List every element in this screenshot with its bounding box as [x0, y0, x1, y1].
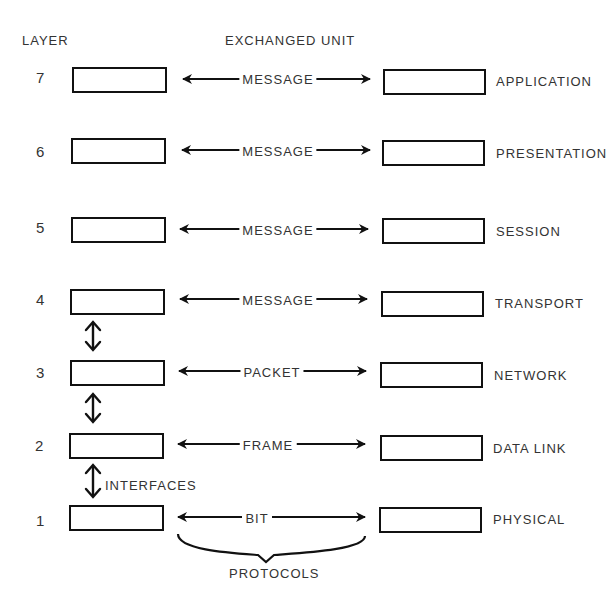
layer-number: 2 [35, 437, 43, 454]
layer-number: 7 [36, 69, 44, 86]
layer-name: DATA LINK [493, 441, 567, 456]
local-layer-box [69, 505, 164, 531]
layer-name: APPLICATION [496, 74, 592, 89]
protocols-label: PROTOCOLS [229, 566, 319, 581]
exchanged-unit-label: PACKET [240, 365, 303, 380]
local-layer-box [72, 67, 167, 93]
layer-name: TRANSPORT [495, 296, 584, 311]
layer-name: PRESENTATION [496, 146, 607, 161]
exchanged-unit-label: MESSAGE [239, 293, 316, 308]
layer-number: 3 [36, 364, 44, 381]
exchanged-unit-label: MESSAGE [239, 144, 316, 159]
layer-number: 4 [36, 291, 44, 308]
interface-arrows [86, 322, 100, 497]
layer-name: NETWORK [494, 368, 567, 383]
interfaces-label: INTERFACES [105, 478, 197, 493]
local-layer-box [69, 433, 164, 459]
remote-layer-box [382, 140, 485, 166]
remote-layer-box [379, 507, 482, 533]
remote-layer-box [380, 362, 483, 388]
exchanged-unit-label: MESSAGE [239, 72, 316, 87]
layer-name: PHYSICAL [493, 512, 565, 527]
remote-layer-box [381, 291, 484, 317]
remote-layer-box [382, 218, 485, 244]
local-layer-box [70, 360, 165, 386]
remote-layer-box [380, 435, 483, 461]
layer-number: 1 [36, 512, 44, 529]
exchanged-unit-label: MESSAGE [239, 223, 316, 238]
remote-layer-box [383, 69, 486, 95]
local-layer-box [70, 289, 165, 315]
local-layer-box [71, 217, 166, 243]
exchanged-unit-label: FRAME [240, 438, 297, 453]
protocols-brace-icon [178, 534, 365, 562]
layer-number: 5 [36, 219, 44, 236]
local-layer-box [71, 138, 166, 164]
layer-number: 6 [36, 143, 44, 160]
layer-name: SESSION [496, 224, 561, 239]
exchanged-unit-label: BIT [242, 511, 271, 526]
